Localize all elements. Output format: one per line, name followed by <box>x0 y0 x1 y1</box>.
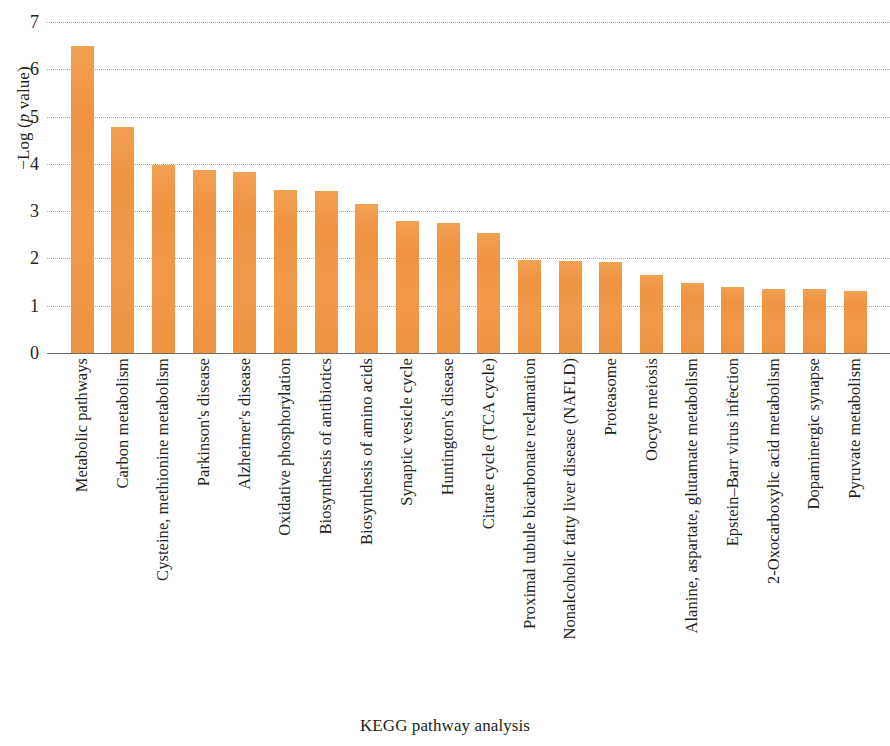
y-tick-label: 7 <box>30 13 39 31</box>
gridline <box>47 22 890 23</box>
bar <box>559 261 582 353</box>
x-tick-label: Oocyte meiosis <box>643 358 660 461</box>
bar <box>599 262 622 353</box>
bar <box>437 223 460 354</box>
bar <box>355 204 378 353</box>
x-tick-label: Metabolic pathways <box>74 358 91 492</box>
y-tick-label: 3 <box>30 202 39 220</box>
gridline <box>47 117 890 118</box>
bar <box>762 289 785 353</box>
x-tick-label: Proteasome <box>603 358 620 435</box>
x-tick-label: Alanine, aspartate, glutamate metabolism <box>684 358 701 634</box>
x-tick-label: Nonalcoholic fatty liver disease (NAFLD) <box>562 358 579 640</box>
plot-area: 01234567 <box>47 22 890 353</box>
bar <box>274 190 297 353</box>
x-tick-label-slot: Huntington's disease <box>437 358 460 706</box>
bar <box>71 46 94 353</box>
x-tick-label: Cysteine, methionine metabolism <box>155 358 172 581</box>
x-tick-label-slot: Pyruvate metabolism <box>844 358 867 706</box>
x-tick-label-slot: Biosynthesis of antibiotics <box>315 358 338 706</box>
gridline <box>47 69 890 70</box>
bar <box>681 283 704 353</box>
y-tick-label: 2 <box>30 249 39 267</box>
y-tick-label: 4 <box>30 155 39 173</box>
y-tick-label: 6 <box>30 60 39 78</box>
x-tick-label-slot: Oxidative phosphorylation <box>274 358 297 706</box>
x-tick-label-slot: Dopaminergic synapse <box>803 358 826 706</box>
x-tick-label-slot: Biosynthesis of amino acids <box>355 358 378 706</box>
x-tick-label-slot: Alzheimer's disease <box>233 358 256 706</box>
x-tick-label-slot: Epstein–Barr virus infection <box>721 358 744 706</box>
x-tick-label: Synaptic vesicle cycle <box>399 358 416 506</box>
bar <box>233 172 256 353</box>
x-tick-label-slot: Proteasome <box>599 358 622 706</box>
bar <box>111 127 134 353</box>
x-tick-label-slot: Cysteine, methionine metabolism <box>152 358 175 706</box>
x-tick-label-slot: Carbon metabolism <box>111 358 134 706</box>
bar <box>803 289 826 353</box>
bar <box>193 170 216 353</box>
x-tick-label-slot: Alanine, aspartate, glutamate metabolism <box>681 358 704 706</box>
x-tick-label: Pyruvate metabolism <box>847 358 864 499</box>
x-tick-label: Huntington's disease <box>440 358 457 495</box>
x-tick-label-slot: Nonalcoholic fatty liver disease (NAFLD) <box>559 358 582 706</box>
bar <box>152 165 175 353</box>
bar <box>477 233 500 353</box>
x-tick-label: Dopaminergic synapse <box>806 358 823 509</box>
x-tick-label: Parkinson's disease <box>196 358 213 486</box>
x-tick-label-slot: Synaptic vesicle cycle <box>396 358 419 706</box>
bar <box>315 191 338 353</box>
x-tick-label: 2-Oxocarboxylic acid metabolism <box>765 358 782 584</box>
y-tick-label: 5 <box>30 108 39 126</box>
x-tick-label: Citrate cycle (TCA cycle) <box>481 358 498 529</box>
bar <box>518 260 541 353</box>
x-tick-label-slot: Oocyte meiosis <box>640 358 663 706</box>
x-axis-title: KEGG pathway analysis <box>0 716 890 736</box>
x-tick-label: Proximal tubule bicarbonate reclamation <box>521 358 538 629</box>
x-tick-label-slot: 2-Oxocarboxylic acid metabolism <box>762 358 785 706</box>
bar <box>721 287 744 353</box>
x-tick-label: Biosynthesis of antibiotics <box>318 358 335 534</box>
x-tick-label: Alzheimer's disease <box>236 358 253 490</box>
x-tick-label: Oxidative phosphorylation <box>277 358 294 536</box>
x-tick-label-slot: Metabolic pathways <box>71 358 94 706</box>
x-tick-label: Epstein–Barr virus infection <box>725 358 742 546</box>
y-tick-label: 1 <box>30 297 39 315</box>
bar <box>396 221 419 353</box>
x-tick-label: Biosynthesis of amino acids <box>359 358 376 545</box>
bar <box>640 275 663 353</box>
x-tick-label-slot: Citrate cycle (TCA cycle) <box>477 358 500 706</box>
x-axis-line <box>47 353 890 354</box>
x-tick-label-slot: Parkinson's disease <box>193 358 216 706</box>
x-tick-label-slot: Proximal tubule bicarbonate reclamation <box>518 358 541 706</box>
x-tick-label: Carbon metabolism <box>114 358 131 489</box>
x-tick-labels: Metabolic pathwaysCarbon metabolismCyste… <box>47 358 890 708</box>
bar <box>844 291 867 353</box>
kegg-pathway-bar-chart: −Log (p value) 01234567 Metabolic pathwa… <box>0 0 890 746</box>
y-tick-label: 0 <box>30 344 39 362</box>
